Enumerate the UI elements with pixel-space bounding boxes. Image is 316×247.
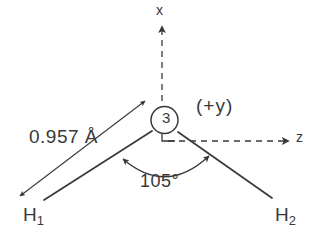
axis-y-label: (+y) — [196, 96, 233, 115]
bond-length-dimension-arrow — [20, 101, 145, 196]
hydrogen-2-index: 2 — [289, 213, 296, 228]
central-atom-label: 3 — [162, 110, 170, 125]
hydrogen-1-index: 1 — [37, 213, 44, 228]
axis-x-label: x — [156, 3, 163, 17]
hydrogen-2-label: H2 — [275, 205, 296, 228]
bond-line-o-h2 — [178, 132, 272, 198]
hydrogen-1-label: H1 — [23, 205, 44, 228]
hydrogen-2-element: H — [275, 204, 289, 225]
hydrogen-1-element: H — [23, 204, 37, 225]
axis-z-label: z — [296, 130, 303, 144]
bond-length-label: 0.957 Å — [29, 127, 98, 146]
diagram-canvas — [0, 0, 316, 247]
bond-angle-label: 105° — [140, 172, 179, 190]
molecular-geometry-figure: x z (+y) 3 0.957 Å 105° H1 H2 — [0, 0, 316, 247]
